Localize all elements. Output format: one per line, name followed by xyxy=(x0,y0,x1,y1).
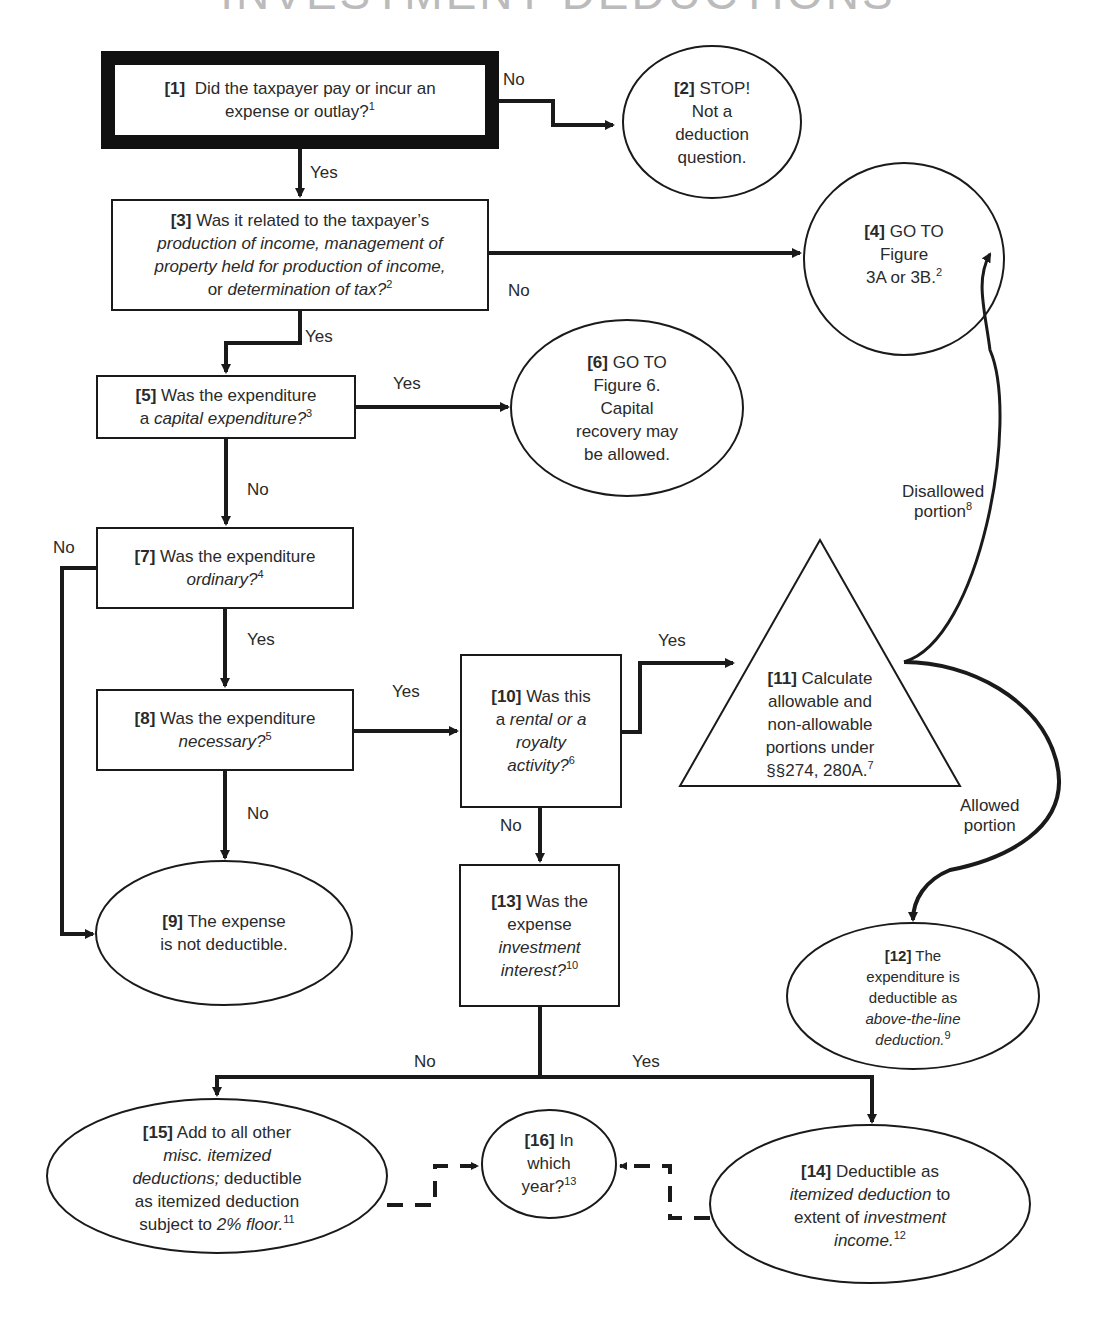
node-3-line4: determination of tax? xyxy=(227,280,386,299)
node-3-line4-prefix: or xyxy=(208,280,228,299)
edge-label-disallowed: Disallowed portion8 xyxy=(902,482,984,522)
edge-label-13-15: No xyxy=(414,1052,436,1072)
node-10-line3: royalty xyxy=(516,733,566,752)
edge-label-10-11: Yes xyxy=(658,631,686,651)
node-2-line2: Not a xyxy=(692,100,733,123)
footnote-2: 2 xyxy=(386,278,392,290)
node-16-line2: which xyxy=(527,1152,570,1175)
node-15-line1: Add to all other xyxy=(177,1123,291,1142)
edge-label-8-10: Yes xyxy=(392,682,420,702)
node-7-number: [7] xyxy=(135,547,156,566)
node-6-line3: Capital xyxy=(601,397,654,420)
node-12-text: [12] The expenditure is deductible as ab… xyxy=(833,945,993,1049)
edge-13-to-15 xyxy=(217,1077,540,1095)
node-15-line5: 2% floor. xyxy=(217,1215,283,1234)
edge-label-7-9: No xyxy=(53,538,75,558)
node-16-line3: year? xyxy=(522,1177,565,1196)
footnote-12: 12 xyxy=(894,1229,906,1241)
edge-label-5-7: No xyxy=(247,480,269,500)
edge-label-allowed-line2: portion xyxy=(960,816,1020,836)
node-3-text: [3] Was it related to the taxpayer’s pro… xyxy=(114,202,486,308)
footnote-4: 4 xyxy=(257,568,263,580)
node-8-text: [8] Was the expenditure necessary?5 xyxy=(99,692,351,768)
edge-7-to-9 xyxy=(62,568,97,934)
node-1-text: [1] Did the taxpayer pay or incur an exp… xyxy=(118,68,482,132)
node-11-line4: portions under xyxy=(766,736,875,759)
node-3-number: [3] xyxy=(171,211,192,230)
node-12-line4: above-the-line xyxy=(865,1010,960,1027)
footnote-11: 11 xyxy=(283,1213,294,1225)
node-8-line2: necessary? xyxy=(178,732,265,751)
node-6-line5: be allowed. xyxy=(584,443,670,466)
node-9-text: [9] The expense is not deductible. xyxy=(110,905,338,961)
node-10-line2-prefix: a xyxy=(496,710,510,729)
node-5-number: [5] xyxy=(136,386,157,405)
node-14-line1: Deductible as xyxy=(836,1162,939,1181)
node-7-line2: ordinary? xyxy=(187,570,258,589)
edge-label-disallowed-line1: Disallowed xyxy=(902,482,984,502)
node-4-line2: Figure xyxy=(880,243,928,266)
node-14-line4: income. xyxy=(834,1231,894,1250)
node-5-line2-prefix: a xyxy=(140,409,154,428)
edge-label-1-2: No xyxy=(503,70,525,90)
footnote-6: 6 xyxy=(569,754,575,766)
node-14-line3-prefix: extent of xyxy=(794,1208,864,1227)
node-14-line3: investment xyxy=(864,1208,946,1227)
node-4-text: [4] GO TO Figure 3A or 3B.2 xyxy=(824,214,984,294)
node-15-line3: deductions; xyxy=(132,1169,219,1188)
node-4-line3: 3A or 3B. xyxy=(866,268,936,287)
node-7-line1: Was the expenditure xyxy=(160,547,315,566)
node-14-number: [14] xyxy=(801,1162,831,1181)
node-5-line1: Was the expenditure xyxy=(161,386,316,405)
node-3-line3: property held for production of income, xyxy=(154,257,445,276)
node-2-number: [2] xyxy=(674,79,695,98)
node-12-line5: deduction. xyxy=(875,1031,944,1048)
edge-label-13-14: Yes xyxy=(632,1052,660,1072)
node-11-line1: Calculate xyxy=(802,669,873,688)
node-6-line4: recovery may xyxy=(576,420,678,443)
node-2-line3: deduction xyxy=(675,123,749,146)
node-2-line4: question. xyxy=(678,146,747,169)
node-6-line1: GO TO xyxy=(613,353,667,372)
node-10-text: [10] Was this a rental or a royalty acti… xyxy=(463,657,619,805)
node-6-number: [6] xyxy=(587,353,608,372)
edge-label-8-9: No xyxy=(247,804,269,824)
node-1-line2: expense or outlay? xyxy=(225,102,369,121)
edge-13-to-14 xyxy=(540,1077,872,1122)
footnote-9: 9 xyxy=(945,1029,951,1041)
node-12-line3: deductible as xyxy=(869,987,957,1008)
node-8-line1: Was the expenditure xyxy=(160,709,315,728)
node-14-line2-suffix: to xyxy=(931,1185,950,1204)
edge-label-allowed-line1: Allowed xyxy=(960,796,1020,816)
node-4-number: [4] xyxy=(864,222,885,241)
node-10-number: [10] xyxy=(491,687,521,706)
edge-label-3-5: Yes xyxy=(305,327,333,347)
footnote-10: 10 xyxy=(566,959,578,971)
footnote-1: 1 xyxy=(369,100,375,112)
edge-label-allowed: Allowed portion xyxy=(960,796,1020,836)
node-13-line2: expense xyxy=(507,913,571,936)
node-1-line1: Did the taxpayer pay or incur an xyxy=(195,79,436,98)
footnote-2b: 2 xyxy=(936,266,942,278)
node-10-line4: activity? xyxy=(507,756,568,775)
node-6-text: [6] GO TO Figure 6. Capital recovery may… xyxy=(537,345,717,471)
node-13-line3: investment xyxy=(498,938,580,957)
node-15-text: [15] Add to all other misc. itemized ded… xyxy=(87,1116,347,1240)
node-11-line2: allowable and xyxy=(768,690,872,713)
node-11-line5: §§274, 280A. xyxy=(766,761,867,780)
node-4-line1: GO TO xyxy=(890,222,944,241)
node-3-line1: Was it related to the taxpayer’s xyxy=(196,211,429,230)
node-14-text: [14] Deductible as itemized deduction to… xyxy=(740,1150,1000,1262)
edge-label-5-6: Yes xyxy=(393,374,421,394)
node-15-line2: misc. itemized xyxy=(163,1146,271,1165)
node-11-text: [11] Calculate allowable and non-allowab… xyxy=(740,664,900,784)
node-16-line1: In xyxy=(559,1131,573,1150)
node-15-line4: as itemized deduction xyxy=(135,1190,299,1213)
node-16-text: [16] In which year?13 xyxy=(494,1125,604,1201)
node-12-line2: expenditure is xyxy=(866,966,959,987)
node-7-text: [7] Was the expenditure ordinary?4 xyxy=(99,530,351,606)
node-11-number: [11] xyxy=(768,669,797,688)
node-2-line1: STOP! xyxy=(699,79,750,98)
node-15-line5-prefix: subject to xyxy=(139,1215,217,1234)
edge-11-to-12-allowed xyxy=(904,662,1059,920)
